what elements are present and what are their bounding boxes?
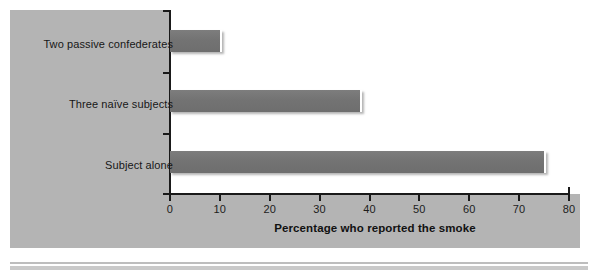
x-axis-tick-8: [568, 195, 570, 201]
x-axis-tick-0: [169, 195, 171, 201]
x-axis-end-cap: [568, 187, 570, 195]
x-axis-tick-3: [319, 195, 321, 201]
x-axis-tick-label-8: 80: [549, 203, 589, 215]
category-label-1: Three naïve subjects: [0, 98, 173, 110]
bar-two-passive-confederates: [170, 30, 222, 52]
y-axis-tick-1: [163, 72, 170, 74]
bar-subject-alone: [170, 151, 546, 173]
x-axis-tick-label-3: 30: [300, 203, 340, 215]
category-label-2: Subject alone: [0, 159, 173, 171]
footer-divider: [10, 262, 588, 264]
x-axis-tick-7: [518, 195, 520, 201]
x-axis-tick-label-4: 40: [350, 203, 390, 215]
figure-container: Two passive confederates Three naïve sub…: [0, 0, 593, 270]
bar-fill: [170, 30, 220, 52]
x-axis-tick-4: [369, 195, 371, 201]
x-axis-tick-6: [468, 195, 470, 201]
x-axis-tick-2: [269, 195, 271, 201]
x-axis-tick-label-1: 10: [200, 203, 240, 215]
x-axis-tick-label-7: 70: [499, 203, 539, 215]
x-axis-tick-label-5: 50: [399, 203, 439, 215]
x-axis-tick-label-2: 20: [250, 203, 290, 215]
footer-divider-secondary: [10, 266, 588, 270]
y-axis-tick-2: [163, 133, 170, 135]
x-axis-tick-label-6: 60: [449, 203, 489, 215]
y-axis-top-cap: [163, 10, 171, 12]
x-axis-title: Percentage who reported the smoke: [170, 222, 580, 234]
bar-fill: [170, 151, 544, 173]
x-axis-tick-label-0: 0: [150, 203, 190, 215]
bar-fill: [170, 90, 360, 112]
category-label-0: Two passive confederates: [0, 38, 173, 50]
bar-three-naive-subjects: [170, 90, 362, 112]
x-axis-tick-5: [418, 195, 420, 201]
x-axis-tick-1: [219, 195, 221, 201]
